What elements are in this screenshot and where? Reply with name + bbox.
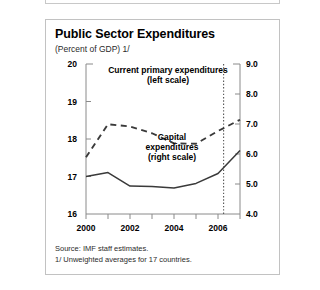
y-left-tick-18: 18 (55, 134, 77, 144)
y-left-tick-19: 19 (55, 97, 77, 107)
left-axis-ticks (86, 102, 91, 177)
right-axis-ticks (235, 94, 240, 184)
y-left-tick-20: 20 (55, 59, 77, 69)
y-right-tick-9: 9.0 (246, 59, 272, 69)
y-right-tick-8: 8.0 (246, 89, 272, 99)
annotation-current-primary-line2: (left scale) (98, 75, 238, 85)
annotation-capital-line2: expenditures (130, 142, 214, 152)
x-tick-2004: 2004 (154, 223, 194, 233)
annotation-current-primary-line1: Current primary expenditures (98, 65, 238, 75)
adjacent-figure-frame-stub (45, 0, 280, 4)
x-tick-2002: 2002 (110, 223, 150, 233)
chart-panel: Public Sector Expenditures (Percent of G… (45, 19, 280, 275)
chart-title: Public Sector Expenditures (55, 27, 215, 41)
footnote-1: 1/ Unweighted averages for 17 countries. (55, 255, 192, 266)
y-right-tick-7: 7.0 (246, 119, 272, 129)
x-tick-2000: 2000 (66, 223, 106, 233)
y-left-tick-17: 17 (55, 172, 77, 182)
y-right-tick-6: 6.0 (246, 149, 272, 159)
annotation-current-primary-expenditures: Current primary expenditures (left scale… (98, 65, 238, 85)
x-tick-2006: 2006 (198, 223, 238, 233)
y-right-tick-4: 4.0 (246, 209, 272, 219)
chart-subtitle: (Percent of GDP) 1/ (55, 44, 130, 54)
y-left-tick-16: 16 (55, 209, 77, 219)
y-right-tick-5: 5.0 (246, 179, 272, 189)
x-axis-ticks (86, 214, 240, 219)
footnotes: Source: IMF staff estimates. 1/ Unweight… (55, 244, 192, 266)
annotation-capital-line3: (right scale) (130, 152, 214, 162)
annotation-capital-expenditures: Capital expenditures (right scale) (130, 132, 214, 162)
source-note: Source: IMF staff estimates. (55, 244, 192, 255)
plot-area: 20 19 18 17 16 9.0 8.0 7.0 6.0 5.0 4.0 2… (46, 56, 281, 256)
annotation-capital-line1: Capital (130, 132, 214, 142)
